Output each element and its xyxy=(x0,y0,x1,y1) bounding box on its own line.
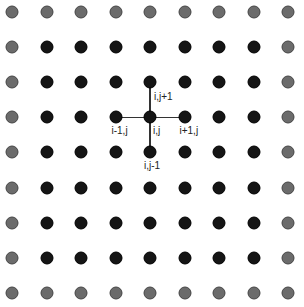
label-east: i+1,j xyxy=(180,126,199,136)
boundary-point xyxy=(6,286,19,299)
boundary-point xyxy=(144,6,157,19)
boundary-point xyxy=(282,111,295,124)
boundary-point xyxy=(247,286,260,299)
boundary-point xyxy=(109,6,122,19)
boundary-point xyxy=(6,216,19,229)
boundary-point xyxy=(6,251,19,264)
interior-point xyxy=(144,41,157,54)
boundary-point xyxy=(213,286,226,299)
boundary-point xyxy=(6,181,19,194)
boundary-point xyxy=(282,251,295,264)
interior-point xyxy=(178,181,191,194)
boundary-point xyxy=(178,286,191,299)
boundary-point xyxy=(75,286,88,299)
boundary-point xyxy=(178,6,191,19)
boundary-point xyxy=(282,286,295,299)
interior-point xyxy=(247,111,260,124)
interior-point xyxy=(178,251,191,264)
boundary-point xyxy=(40,286,53,299)
interior-point xyxy=(213,76,226,89)
interior-point xyxy=(144,111,157,124)
interior-point xyxy=(178,76,191,89)
interior-point xyxy=(109,251,122,264)
boundary-point xyxy=(282,6,295,19)
interior-point xyxy=(144,76,157,89)
interior-point xyxy=(213,181,226,194)
interior-point xyxy=(213,146,226,159)
boundary-point xyxy=(6,111,19,124)
interior-point xyxy=(40,41,53,54)
interior-point xyxy=(247,251,260,264)
boundary-point xyxy=(213,6,226,19)
interior-point xyxy=(213,111,226,124)
interior-point xyxy=(75,216,88,229)
interior-point xyxy=(144,181,157,194)
label-west: i-1,j xyxy=(112,126,128,136)
interior-point xyxy=(247,76,260,89)
interior-point xyxy=(247,181,260,194)
interior-point xyxy=(213,216,226,229)
interior-point xyxy=(178,111,191,124)
interior-point xyxy=(109,41,122,54)
boundary-point xyxy=(109,286,122,299)
interior-point xyxy=(213,41,226,54)
interior-point xyxy=(40,181,53,194)
interior-point xyxy=(40,216,53,229)
boundary-point xyxy=(75,6,88,19)
interior-point xyxy=(144,146,157,159)
interior-point xyxy=(178,41,191,54)
interior-point xyxy=(109,76,122,89)
interior-point xyxy=(178,216,191,229)
interior-point xyxy=(40,111,53,124)
interior-point xyxy=(247,216,260,229)
boundary-point xyxy=(6,76,19,89)
interior-point xyxy=(109,111,122,124)
boundary-point xyxy=(144,286,157,299)
interior-point xyxy=(75,76,88,89)
boundary-point xyxy=(282,76,295,89)
interior-point xyxy=(40,251,53,264)
interior-point xyxy=(75,41,88,54)
boundary-point xyxy=(282,146,295,159)
boundary-point xyxy=(282,216,295,229)
interior-point xyxy=(109,146,122,159)
boundary-point xyxy=(247,6,260,19)
boundary-point xyxy=(6,146,19,159)
interior-point xyxy=(144,251,157,264)
interior-point xyxy=(213,251,226,264)
interior-point xyxy=(40,76,53,89)
interior-point xyxy=(75,181,88,194)
interior-point xyxy=(109,181,122,194)
interior-point xyxy=(178,146,191,159)
interior-point xyxy=(247,146,260,159)
boundary-point xyxy=(282,181,295,194)
boundary-point xyxy=(40,6,53,19)
interior-point xyxy=(247,41,260,54)
label-south: i,j-1 xyxy=(144,161,160,171)
label-north: i,j+1 xyxy=(154,92,173,102)
interior-point xyxy=(75,146,88,159)
interior-point xyxy=(75,111,88,124)
boundary-point xyxy=(6,41,19,54)
boundary-point xyxy=(6,6,19,19)
grid-diagram: i,j+1 i,j i-1,j i+1,j i,j-1 xyxy=(0,0,304,307)
label-center: i,j xyxy=(153,126,160,136)
interior-point xyxy=(144,216,157,229)
interior-point xyxy=(75,251,88,264)
interior-point xyxy=(40,146,53,159)
interior-point xyxy=(109,216,122,229)
boundary-point xyxy=(282,41,295,54)
